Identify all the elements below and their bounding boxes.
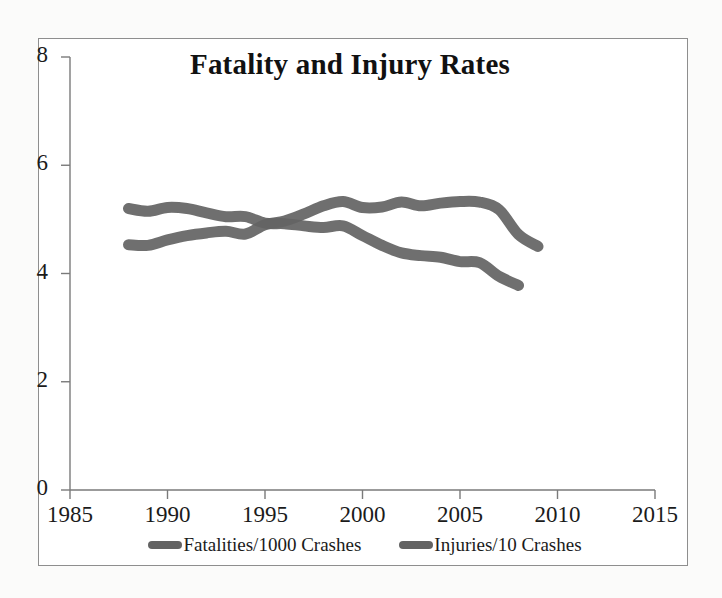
series-layer [129, 201, 539, 285]
figure-page: Fatality and Injury Rates 02468 19851990… [0, 0, 722, 598]
x-axis-tick-label: 2005 [420, 502, 500, 528]
y-axis-tick-label: 4 [22, 259, 48, 285]
legend-label: Fatalities/1000 Crashes [183, 534, 361, 556]
legend-entry-2[interactable]: Injuries/10 Crashes [399, 534, 581, 556]
y-axis-tick-label: 2 [22, 367, 48, 393]
chart-legend: Fatalities/1000 CrashesInjuries/10 Crash… [150, 534, 580, 556]
legend-label: Injuries/10 Crashes [434, 534, 581, 556]
legend-line-swatch-icon [399, 541, 433, 549]
legend-line-swatch-icon [148, 541, 182, 549]
chart-title: Fatality and Injury Rates [120, 48, 580, 81]
x-axis-tick-label: 1990 [128, 502, 208, 528]
y-axis-tick-label: 6 [22, 150, 48, 176]
x-axis-tick-label: 2010 [518, 502, 598, 528]
x-axis-tick-label: 2015 [615, 502, 695, 528]
y-axis-tick-label: 8 [22, 42, 48, 68]
series-line-1 [129, 207, 519, 285]
x-axis-tick-label: 1995 [225, 502, 305, 528]
axis-layer [61, 57, 655, 499]
x-axis-tick-label: 1985 [30, 502, 110, 528]
y-axis-tick-label: 0 [22, 475, 48, 501]
x-axis-tick-label: 2000 [323, 502, 403, 528]
legend-entry-1[interactable]: Fatalities/1000 Crashes [148, 534, 361, 556]
